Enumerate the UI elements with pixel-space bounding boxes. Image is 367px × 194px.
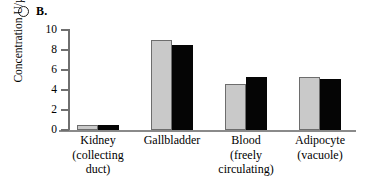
bar (320, 79, 341, 130)
bar-chart: Concentration U/µL 0246810 Kidney(collec… (0, 0, 367, 194)
y-axis-tick-label: 8 (33, 44, 57, 55)
x-axis-label-line: Adipocyte (265, 133, 367, 148)
y-axis-tick-label: 6 (33, 64, 57, 75)
y-axis-tick (61, 29, 69, 31)
bar (98, 125, 119, 131)
y-axis-tick-label: 4 (33, 84, 57, 95)
bar (172, 45, 193, 130)
x-axis-label: Adipocyte(vacuole) (265, 133, 367, 162)
y-axis-tick (61, 129, 69, 131)
bar (246, 77, 267, 130)
x-axis-label-line: duct) (43, 162, 153, 177)
y-axis-line (68, 29, 70, 131)
x-axis-line (59, 130, 356, 132)
y-axis-tick-label: 10 (33, 24, 57, 35)
y-axis-tick (61, 109, 69, 111)
y-axis-title: Concentration U/µL (10, 0, 26, 90)
x-axis-label-line: circulating) (191, 162, 301, 177)
y-axis-tick (61, 89, 69, 91)
y-axis-tick (61, 49, 69, 51)
bar (299, 77, 320, 130)
y-axis-tick-label: 2 (33, 104, 57, 115)
x-axis-label-line: (vacuole) (265, 148, 367, 163)
bar (151, 40, 172, 130)
bar (77, 125, 98, 130)
bar (225, 84, 246, 130)
x-axis-label-line: (collecting (43, 148, 153, 163)
y-axis-tick (61, 69, 69, 71)
